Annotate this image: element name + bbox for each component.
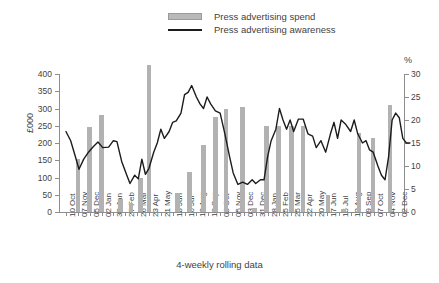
y-right-tick-label: 0	[411, 208, 439, 216]
y-left-tick-label: 200	[22, 139, 52, 147]
chart-legend: Press advertising spend Press advertisin…	[168, 10, 335, 36]
y-left-tick-label: 50	[22, 191, 52, 199]
x-axis-tick	[149, 212, 150, 216]
legend-bar-swatch-icon	[168, 13, 202, 20]
y-right-tick-label: 20	[411, 116, 439, 124]
x-axis-title: 4-weekly rolling data	[0, 259, 439, 270]
x-axis-tick	[102, 212, 103, 216]
y-left-tick-label: 0	[22, 208, 52, 216]
x-axis-tick	[315, 212, 316, 216]
y-left-tick	[55, 74, 59, 75]
y-left-tick-label: 150	[22, 156, 52, 164]
x-axis-tick	[185, 212, 186, 216]
y-left-tick-label: 400	[22, 70, 52, 78]
x-axis-tick	[339, 212, 340, 216]
x-axis-tick	[173, 212, 174, 216]
y-left-tick	[55, 91, 59, 92]
x-axis-tick	[398, 212, 399, 216]
x-axis-tick	[327, 212, 328, 216]
legend-item-awareness: Press advertising awareness	[168, 23, 335, 36]
x-axis-tick	[161, 212, 162, 216]
y-right-tick-label: 25	[411, 93, 439, 101]
x-axis-tick	[220, 212, 221, 216]
y-left-tick-label: 300	[22, 105, 52, 113]
y-left-tick	[55, 195, 59, 196]
awareness-line-path	[66, 86, 410, 185]
legend-line-swatch-icon	[168, 29, 202, 31]
y-left-tick	[55, 160, 59, 161]
legend-label-awareness: Press advertising awareness	[214, 24, 335, 35]
chart-container: Press advertising spend Press advertisin…	[0, 0, 439, 283]
y-right-tick	[405, 74, 409, 75]
y-left-tick	[55, 126, 59, 127]
y-left-tick	[55, 143, 59, 144]
legend-label-spend: Press advertising spend	[214, 11, 315, 22]
y-right-tick	[405, 120, 409, 121]
y-left-tick-label: 100	[22, 174, 52, 182]
x-axis-tick	[256, 212, 257, 216]
y-right-tick	[405, 97, 409, 98]
y-right-tick-label: 30	[411, 70, 439, 78]
y-right-tick	[405, 189, 409, 190]
y-left-tick	[55, 178, 59, 179]
x-axis-tick	[268, 212, 269, 216]
y-right-tick-label: 10	[411, 162, 439, 170]
x-axis-tick	[137, 212, 138, 216]
y-right-tick	[405, 166, 409, 167]
y-right-tick-label: 5	[411, 185, 439, 193]
x-axis-tick	[66, 212, 67, 216]
y-right-tick-label: 15	[411, 139, 439, 147]
x-axis-tick	[244, 212, 245, 216]
y-left-tick-label: 250	[22, 122, 52, 130]
plot-area	[60, 74, 404, 212]
y-left-tick-label: 350	[22, 87, 52, 95]
y-left-tick	[55, 212, 59, 213]
x-axis-tick	[90, 212, 91, 216]
y-axis-right-title: %	[404, 55, 412, 65]
legend-item-spend: Press advertising spend	[168, 10, 335, 23]
line-series-awareness	[60, 74, 404, 212]
y-left-tick	[55, 109, 59, 110]
x-axis-tick	[232, 212, 233, 216]
x-axis-tick	[351, 212, 352, 216]
x-axis-tick	[78, 212, 79, 216]
